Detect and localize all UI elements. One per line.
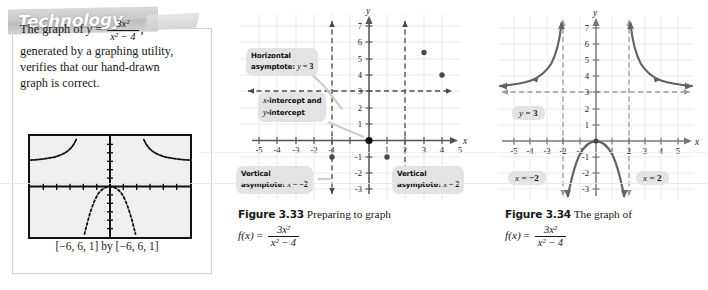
y-tick-label: 2 — [585, 104, 589, 114]
figure-caption-text: Preparing to graph — [307, 208, 391, 220]
x-tick-label: -3 — [543, 146, 550, 156]
origin-data-point — [365, 137, 372, 144]
y-tick-label: 4 — [358, 70, 363, 80]
y-tick-label: 3 — [585, 87, 589, 97]
y-tick-label: 5 — [585, 55, 589, 65]
x-tick-label: 5 — [676, 146, 680, 156]
caption-fx: f(x) — [238, 229, 254, 241]
x-tick-label: -5 — [255, 145, 262, 155]
x-tick-label: 2 — [627, 146, 631, 156]
caption-fraction-numerator: 3x² — [268, 224, 299, 236]
calculator-graph — [30, 136, 190, 237]
x-tick-label: -4 — [526, 146, 534, 156]
data-point — [439, 72, 444, 77]
y-tick-label: -1 — [582, 152, 589, 162]
tag-vertical-asymptote-right: x = 2 — [636, 171, 669, 185]
caption-fraction-denominator: x² − 4 — [535, 236, 566, 249]
callout-eq: = — [301, 62, 309, 71]
x-tick-label: 4 — [440, 145, 445, 155]
x-tick-label: 3 — [422, 145, 426, 155]
tag-eq: = — [523, 108, 533, 118]
callout-line-1: Vertical — [397, 169, 426, 178]
tag-eq: = — [647, 173, 657, 183]
left-branch — [500, 24, 562, 86]
y-tick-label: 1 — [585, 120, 589, 130]
caption-fraction: 3x² x² − 4 — [268, 224, 299, 249]
figure-caption-text: The graph of — [574, 208, 632, 220]
figure-3-33-caption: Figure 3.33 Preparing to graph f(x) = 3x… — [238, 207, 468, 249]
y-tick-label: -1 — [355, 152, 362, 162]
y-tick-label: 7 — [358, 21, 363, 31]
tag-value: 3 — [533, 108, 538, 118]
tag-value: −2 — [529, 173, 539, 183]
x-tick-label: 2 — [403, 145, 407, 155]
caption-eq: = — [257, 229, 263, 241]
y-tick-label: 6 — [358, 37, 363, 47]
figure-3-34: -5 -4 -3 -2 -1 1 2 3 4 5 7 6 5 4 3 2 1 -… — [488, 4, 704, 204]
callout-vertical-asymptote-left: Vertical asymptote: x = −2 — [236, 166, 313, 194]
callout-y-rest: -intercept — [267, 108, 305, 117]
x-tick-label: 5 — [458, 145, 462, 155]
y-tick-label: 7 — [585, 23, 590, 33]
x-axis-label: x — [694, 137, 700, 147]
y-tick-label: -2 — [355, 168, 362, 178]
callout-line-2-prefix: asymptote: — [397, 180, 443, 189]
y-tick-label: 1 — [358, 119, 362, 129]
x-tick-label: -1 — [328, 145, 335, 155]
origin-point — [593, 138, 598, 143]
callout-line-1: Horizontal — [251, 51, 291, 60]
figure-3-34-caption: Figure 3.34 The graph of f(x) = 3x² x² −… — [505, 207, 705, 249]
technology-body-text: The graph of y = 3x² x² − 4 , generated … — [20, 18, 196, 91]
callout-line-2-prefix: asymptote: — [241, 180, 287, 189]
callout-horizontal-asymptote: Horizontal asymptote: y = 3 — [246, 48, 318, 76]
y-tick-label: 2 — [358, 103, 362, 113]
data-point — [329, 154, 334, 159]
callout-value: 3 — [309, 62, 313, 71]
caption-fraction-denominator: x² − 4 — [268, 236, 299, 249]
x-tick-label: 4 — [659, 146, 664, 156]
tech-y-var: y — [87, 22, 92, 36]
y-tick-label: -2 — [582, 168, 589, 178]
callout-value: 2 — [455, 180, 459, 189]
data-point — [384, 154, 389, 159]
technology-panel: Technology The graph of y = 3x² x² − 4 ,… — [8, 6, 220, 274]
x-tick-label: -2 — [310, 145, 317, 155]
y-tick-label: -3 — [582, 184, 589, 194]
tag-horizontal-asymptote: y = 3 — [512, 106, 545, 120]
caption-fraction: 3x² x² − 4 — [535, 224, 566, 249]
x-tick-label: -5 — [510, 146, 517, 156]
y-tick-label: 3 — [358, 86, 362, 96]
x-tick-label: -4 — [273, 145, 281, 155]
tech-fraction-numerator: 3x² — [107, 18, 138, 30]
y-tick-label: 5 — [358, 54, 362, 64]
caption-fx: f(x) — [505, 229, 521, 241]
callout-eq: = — [447, 180, 455, 189]
tech-comma: , — [141, 22, 144, 36]
tag-vertical-asymptote-left: x = −2 — [508, 171, 546, 185]
callout-value: −2 — [299, 180, 308, 189]
calculator-viewing-window: [−6, 6, 1] by [−6, 6, 1] — [8, 240, 206, 252]
callout-vertical-asymptote-right: Vertical asymptote: x = 2 — [392, 166, 464, 194]
tech-fraction-denominator: x² − 4 — [107, 30, 138, 43]
figure-number: Figure 3.34 — [505, 208, 571, 220]
y-tick-label: -3 — [355, 184, 362, 194]
figure-number: Figure 3.33 — [238, 208, 304, 220]
tech-line-2: verifies that our hand-drawn — [20, 60, 160, 74]
caption-fraction-numerator: 3x² — [535, 224, 566, 236]
tech-line-3: graph is correct. — [20, 76, 100, 90]
tech-equals: = — [95, 22, 102, 36]
x-tick-label: 3 — [643, 146, 647, 156]
caption-eq: = — [524, 229, 530, 241]
y-axis-label: y — [365, 6, 371, 16]
tech-fraction: 3x² x² − 4 — [107, 18, 138, 43]
x-tick-label: -3 — [292, 145, 299, 155]
callout-eq: = — [291, 180, 299, 189]
figure-page: Technology The graph of y = 3x² x² − 4 ,… — [0, 0, 708, 290]
callout-x-rest: -intercept and — [267, 96, 322, 105]
x-tick-label: -2 — [559, 146, 566, 156]
tag-value: 2 — [657, 173, 662, 183]
y-tick-label: 4 — [585, 71, 590, 81]
tech-lead: The graph of — [20, 22, 84, 36]
callout-intercepts: x-intercept and y-intercept — [258, 92, 326, 122]
tag-eq: = — [519, 173, 529, 183]
